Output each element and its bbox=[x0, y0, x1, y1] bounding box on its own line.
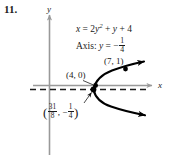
axis-equals: = bbox=[106, 41, 111, 51]
vertex-open-paren: ( bbox=[43, 105, 47, 120]
vertex-y-minus-sign: − bbox=[62, 107, 67, 117]
equation-exponent: 2 bbox=[99, 22, 102, 29]
vertex-close-paren: ) bbox=[74, 105, 78, 120]
x-axis-label: x bbox=[158, 81, 162, 90]
y-axis-label: y bbox=[47, 5, 51, 14]
equation-equals: = bbox=[83, 24, 88, 34]
figure-container: 11. y x x = 2y2 + y + 4 Axis: y = −14 (4… bbox=[0, 0, 169, 155]
leader-line-vertex bbox=[84, 93, 92, 104]
vertex-y-fraction: 14 bbox=[68, 103, 74, 119]
equation-annotation: x = 2y2 + y + 4 bbox=[76, 23, 132, 35]
vertex-x-fraction: 318 bbox=[48, 103, 57, 119]
axis-minus-sign: − bbox=[113, 41, 118, 51]
axis-prefix: Axis: bbox=[76, 41, 97, 51]
vertex-x-denominator: 8 bbox=[48, 112, 57, 120]
vertex-comma: , bbox=[58, 107, 60, 117]
equation-plus-1: + bbox=[105, 24, 110, 34]
point-4-0-close-paren: ) bbox=[83, 70, 86, 80]
axis-fraction: 14 bbox=[119, 37, 125, 54]
leader-line-point-4-0 bbox=[83, 81, 94, 86]
parabola-lower-branch bbox=[94, 90, 146, 115]
point-4-0-dot bbox=[93, 83, 98, 88]
axis-fraction-denominator: 4 bbox=[119, 46, 125, 54]
axis-of-symmetry-annotation: Axis: y = −14 bbox=[76, 37, 126, 54]
vertex-label: (318, −14) bbox=[43, 103, 78, 119]
equation-plus-2: + bbox=[119, 24, 124, 34]
point-label-7-1: (7, 1) bbox=[104, 57, 124, 66]
equation-lhs: x bbox=[76, 24, 80, 34]
point-7-1-dot bbox=[123, 67, 128, 72]
point-7-1-close-paren: ) bbox=[121, 56, 124, 66]
vertex-y-denominator: 4 bbox=[68, 112, 74, 120]
point-label-4-0: (4, 0) bbox=[66, 71, 86, 80]
axis-variable: y bbox=[99, 41, 103, 51]
equation-term-2: y bbox=[113, 24, 117, 34]
equation-constant: 4 bbox=[127, 24, 132, 34]
problem-number: 11. bbox=[4, 4, 17, 15]
